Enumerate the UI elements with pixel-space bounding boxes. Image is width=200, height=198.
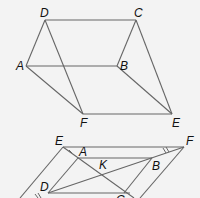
geometry-diagram: D C A B F E E F A B K D	[0, 0, 200, 198]
segment-da	[26, 20, 45, 66]
label-e: E	[55, 134, 64, 148]
segment-af	[26, 66, 83, 114]
label-c: C	[134, 6, 143, 20]
segment-ce	[136, 20, 172, 114]
label-a: A	[15, 59, 24, 73]
segment-bc	[124, 158, 152, 193]
tick-mark	[35, 194, 38, 198]
segment-be	[117, 66, 172, 114]
label-c: C	[116, 193, 125, 198]
label-k: K	[99, 158, 108, 172]
label-d: D	[40, 180, 49, 194]
label-b: B	[152, 159, 160, 173]
label-f: F	[80, 116, 88, 130]
label-d: D	[40, 6, 49, 20]
segment-ec	[63, 147, 134, 198]
figure-2: E F A B K D C	[20, 134, 194, 198]
tick-mark	[163, 148, 166, 153]
label-e: E	[172, 116, 181, 130]
segment-df	[45, 20, 83, 114]
tick-mark	[166, 147, 169, 152]
figure-1: D C A B F E	[15, 6, 181, 130]
label-a: A	[78, 145, 87, 159]
label-f: F	[186, 134, 194, 148]
label-b: B	[120, 59, 128, 73]
